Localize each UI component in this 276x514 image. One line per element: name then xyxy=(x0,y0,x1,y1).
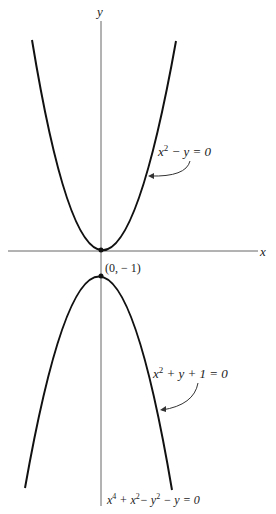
x-axis-label: x xyxy=(259,244,266,259)
origin-point xyxy=(99,248,104,253)
combined-eq-label: x4 + x2− y2 − y = 0 xyxy=(106,492,200,507)
graph: x y (0, − 1) x2 − y = 0 x2 + y + 1 = 0 x… xyxy=(0,0,276,514)
point-0-minus-1 xyxy=(99,274,104,279)
lower-arrow xyxy=(162,383,198,410)
lower-eq-label: x2 + y + 1 = 0 xyxy=(152,365,228,381)
lower-arrow-head xyxy=(160,406,166,412)
y-axis-label: y xyxy=(95,4,103,19)
upper-arrow xyxy=(150,161,190,176)
point-label: (0, − 1) xyxy=(105,261,141,275)
upper-parabola xyxy=(32,40,176,250)
upper-arrow-head xyxy=(148,173,154,179)
upper-eq-label: x2 − y = 0 xyxy=(157,143,212,159)
lower-parabola xyxy=(25,276,172,490)
